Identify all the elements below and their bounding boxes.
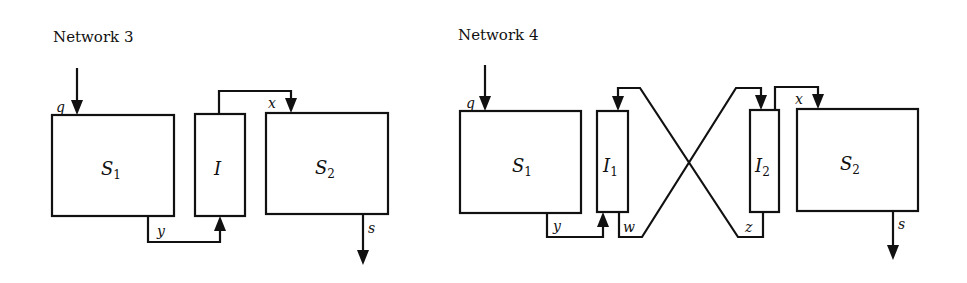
- signal-x-label: x: [795, 91, 803, 107]
- signal-s-label: s: [898, 216, 905, 232]
- network-4-title: Network 4: [458, 26, 538, 44]
- z-wire: [612, 88, 763, 237]
- signal-s-label: s: [368, 220, 375, 236]
- w-wire: [619, 88, 767, 237]
- block-s2: [797, 109, 918, 211]
- signal-q-label: q: [466, 95, 475, 111]
- q-input-arrow-icon: [479, 65, 491, 111]
- signal-q-label: q: [56, 99, 65, 115]
- q-input-arrow-icon: [71, 68, 83, 115]
- block-i-label: I: [213, 158, 222, 179]
- network-diagrams: Network 3 q S1 I S2 y x: [0, 0, 967, 283]
- network-4: Network 4 q S1 I1 I2 S2 y w: [458, 26, 918, 260]
- signal-y-label: y: [552, 218, 562, 234]
- block-i1: [597, 111, 628, 212]
- signal-y-label: y: [156, 223, 166, 239]
- signal-x-label: x: [268, 95, 276, 111]
- x-wire: [219, 91, 297, 114]
- signal-w-label: w: [623, 219, 635, 235]
- signal-z-label: z: [744, 219, 753, 235]
- network-3-title: Network 3: [53, 28, 133, 46]
- network-3: Network 3 q S1 I S2 y x: [52, 28, 388, 265]
